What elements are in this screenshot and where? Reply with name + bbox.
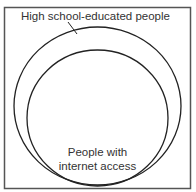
venn-diagram: High school-educated people People with … <box>0 0 196 192</box>
inner-set-label-line2: internet access <box>59 160 137 172</box>
inner-set-label-line1: People with <box>68 146 127 158</box>
outer-set-label: High school-educated people <box>21 10 170 22</box>
